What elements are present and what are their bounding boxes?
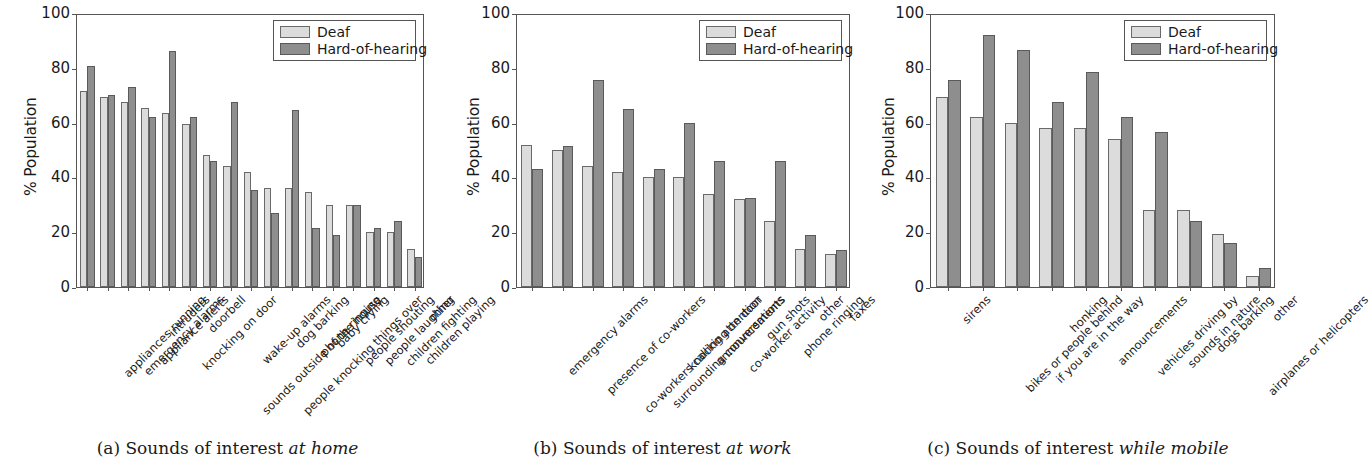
bar-deaf [1108,139,1120,287]
bar-deaf [734,199,745,287]
bar-deaf [936,97,948,287]
bar-hard-of-hearing [623,109,634,287]
x-tick-mark [948,287,949,291]
x-tick-mark [210,287,211,291]
y-tick-label: 60 [470,116,510,131]
y-tick-label: 60 [30,116,70,131]
bar-deaf [346,205,353,287]
bar-deaf [582,166,593,287]
bar-hard-of-hearing [836,250,847,287]
bar-deaf [521,145,532,287]
bar-hard-of-hearing [532,169,543,287]
y-tick-label: 0 [884,280,924,295]
legend-label-hard-of-hearing: Hard-of-hearing [1168,42,1278,56]
x-tick-mark [1121,287,1122,291]
bar-deaf [1039,128,1051,287]
x-tick-mark [684,287,685,291]
bar-hard-of-hearing [128,87,135,287]
x-tick-mark [593,287,594,291]
bar-hard-of-hearing [775,161,786,287]
x-tick-mark [563,287,564,291]
bar-hard-of-hearing [169,51,176,287]
caption-c-prefix: (c) Sounds of interest [927,438,1118,458]
bar-hard-of-hearing [563,146,574,287]
caption-b-prefix: (b) Sounds of interest [533,438,726,458]
legend-b: Deaf Hard-of-hearing [699,20,842,61]
legend-entry-hoh-c: Hard-of-hearing [1131,42,1259,56]
x-tick-label: bikes or people behind [1024,294,1125,395]
bar-hard-of-hearing [1086,72,1098,287]
bar-hard-of-hearing [1052,102,1064,287]
legend-swatch-deaf-icon [280,26,310,38]
bar-hard-of-hearing [948,80,960,287]
bar-deaf [970,117,982,287]
x-tick-mark [231,287,232,291]
x-tick-mark [108,287,109,291]
caption-b-emphasis: at work [726,438,792,458]
legend-a: Deaf Hard-of-hearing [273,20,416,61]
bar-hard-of-hearing [108,95,115,287]
bar-hard-of-hearing [87,66,94,287]
y-tick-label: 100 [884,6,924,21]
x-tick-label: sirens [961,294,993,326]
caption-a-prefix: (a) Sounds of interest [97,438,289,458]
y-tick-mark [72,288,76,289]
bar-deaf [100,97,107,287]
bar-deaf [244,172,251,287]
legend-entry-deaf-c: Deaf [1131,25,1259,39]
bar-deaf [1005,123,1017,287]
bar-hard-of-hearing [714,161,725,287]
bar-deaf [612,172,623,287]
bar-deaf [162,113,169,287]
x-tick-mark [532,287,533,291]
bar-deaf [764,221,775,287]
legend-swatch-hard-of-hearing-icon [706,43,736,55]
bar-deaf [264,188,271,287]
bar-deaf [407,249,414,287]
x-tick-mark [87,287,88,291]
bar-hard-of-hearing [1121,117,1133,287]
x-tick-mark [1224,287,1225,291]
x-tick-mark [333,287,334,291]
bar-hard-of-hearing [374,228,381,287]
bar-deaf [223,166,230,287]
legend-swatch-hard-of-hearing-icon [280,43,310,55]
bar-deaf [80,91,87,287]
bar-deaf [141,108,148,287]
legend-entry-hoh-a: Hard-of-hearing [280,42,408,56]
y-tick-label: 20 [470,225,510,240]
bar-hard-of-hearing [333,235,340,287]
x-tick-mark [745,287,746,291]
x-tick-mark [394,287,395,291]
bar-hard-of-hearing [149,117,156,287]
caption-b: (b) Sounds of interest at work [455,438,870,458]
x-tick-mark [271,287,272,291]
y-tick-label: 40 [470,170,510,185]
bar-deaf [1246,276,1258,287]
legend-entry-deaf-b: Deaf [706,25,834,39]
y-tick-label: 0 [30,280,70,295]
legend-label-deaf: Deaf [1168,25,1201,39]
x-tick-mark [1190,287,1191,291]
y-tick-label: 100 [30,6,70,21]
legend-label-hard-of-hearing: Hard-of-hearing [743,42,853,56]
caption-c: (c) Sounds of interest while mobile [870,438,1286,458]
y-tick-label: 0 [470,280,510,295]
panel-b-sounds-at-work: % Population 020406080100 emergency alar… [455,0,870,466]
bar-deaf [552,150,563,287]
x-tick-mark [353,287,354,291]
bar-hard-of-hearing [1017,50,1029,287]
bar-deaf [673,177,684,287]
bar-hard-of-hearing [745,198,756,287]
bar-hard-of-hearing [415,257,422,287]
bar-deaf [1177,210,1189,287]
y-tick-label: 60 [884,116,924,131]
x-tick-mark [836,287,837,291]
y-tick-mark [926,288,930,289]
panel-c-sounds-while-mobile: % Population 020406080100 sirensbikes or… [870,0,1286,466]
bar-deaf [326,205,333,287]
x-tick-mark [251,287,252,291]
bar-deaf [121,102,128,287]
bar-deaf [203,155,210,287]
